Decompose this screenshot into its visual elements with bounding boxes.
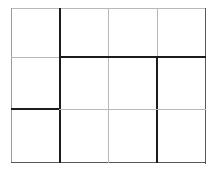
horizontal-rule-1-left (11, 57, 60, 58)
frame-right-edge (205, 8, 206, 164)
vertical-rule-1-upper (59, 8, 61, 57)
vertical-rule-3-upper (157, 8, 158, 57)
vertical-rule-2-lower (108, 109, 109, 163)
horizontal-rule-2-left (11, 108, 61, 110)
horizontal-rule-2-right (59, 109, 206, 110)
vertical-rule-2-middle (108, 57, 109, 109)
vertical-rule-3-lower (156, 109, 158, 163)
vertical-rule-1-middle (59, 57, 61, 109)
vertical-rule-1-lower (59, 109, 61, 163)
horizontal-rule-1-right (59, 56, 206, 58)
vertical-rule-3-middle (156, 57, 158, 109)
grid-line-figure (0, 0, 217, 171)
frame-left-edge (11, 8, 12, 163)
vertical-rule-2-upper (108, 8, 109, 57)
